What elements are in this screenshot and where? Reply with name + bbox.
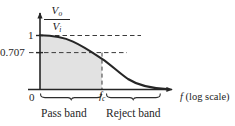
pass-band-brace — [41, 94, 102, 100]
reject-band-brace — [107, 94, 161, 100]
y-axis-label: Vo Vi — [44, 4, 70, 35]
pass-band-shaded-region — [40, 36, 102, 90]
x-axis-label-text: (log scale) — [183, 91, 230, 102]
y-axis-numerator-subscript: o — [58, 9, 62, 18]
cutoff-frequency-label: fc — [99, 90, 105, 103]
cutoff-subscript: c — [102, 94, 105, 103]
reject-band-label: Reject band — [106, 108, 161, 120]
filter-response-figure: Vo Vi 1 0.707 0 fc f (log scale) Pass ba… — [0, 0, 235, 126]
y-tick-label-unity: 1 — [28, 30, 34, 41]
pass-band-label: Pass band — [41, 108, 87, 120]
y-axis-denominator-subscript: i — [59, 26, 61, 35]
y-axis-label-denominator: Vi — [44, 20, 70, 34]
x-axis-label: f (log scale) — [180, 92, 230, 103]
y-tick-label-0707: 0.707 — [0, 47, 25, 58]
origin-label: 0 — [29, 92, 35, 103]
y-axis-label-numerator: Vo — [44, 4, 70, 18]
